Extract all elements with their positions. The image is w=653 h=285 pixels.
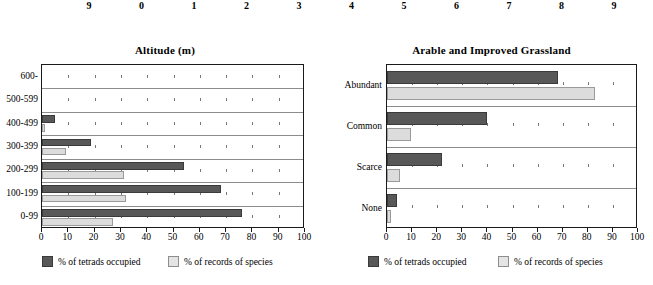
x-gridline-tick bbox=[613, 123, 614, 126]
legend-swatch-dark-icon bbox=[42, 256, 53, 267]
bar bbox=[42, 171, 124, 179]
x-axis-tick-mark bbox=[461, 228, 462, 232]
x-gridline-tick bbox=[462, 205, 463, 208]
x-axis-tick-label: 100 bbox=[291, 232, 317, 243]
legend-label: % of tetrads occupied bbox=[58, 257, 141, 267]
x-gridline-tick bbox=[68, 122, 69, 125]
x-gridline-tick bbox=[226, 98, 227, 101]
legend-altitude: % of tetrads occupied% of records of spe… bbox=[0, 256, 330, 272]
x-axis-tick-label: 30 bbox=[107, 232, 133, 243]
x-gridline-tick bbox=[279, 192, 280, 195]
x-gridline-tick bbox=[200, 145, 201, 148]
x-gridline-tick bbox=[538, 164, 539, 167]
x-gridline-tick bbox=[538, 205, 539, 208]
x-gridline-tick bbox=[252, 192, 253, 195]
x-gridline-tick bbox=[613, 205, 614, 208]
cut-off-axis-tick-label: 6 bbox=[448, 0, 466, 12]
x-gridline-tick bbox=[252, 145, 253, 148]
cut-off-axis-tick-label: 7 bbox=[500, 0, 518, 12]
x-gridline-tick bbox=[613, 164, 614, 167]
category-separator bbox=[42, 135, 303, 136]
category-separator bbox=[42, 112, 303, 113]
x-gridline-tick bbox=[226, 192, 227, 195]
legend-item-records-of-species: % of records of species bbox=[168, 256, 273, 267]
x-axis-tick-label: 40 bbox=[473, 232, 499, 243]
x-gridline-tick bbox=[252, 169, 253, 172]
x-gridline-tick bbox=[200, 169, 201, 172]
x-gridline-tick bbox=[588, 164, 589, 167]
y-axis-category-label: Scarce bbox=[330, 162, 382, 172]
x-gridline-tick bbox=[279, 145, 280, 148]
x-axis-tick-label: 20 bbox=[81, 232, 107, 243]
bar bbox=[42, 218, 113, 226]
x-gridline-tick bbox=[147, 122, 148, 125]
x-axis-tick-mark bbox=[251, 228, 252, 232]
legend-label: % of records of species bbox=[184, 257, 273, 267]
y-axis-category-label: 0-99 bbox=[0, 211, 38, 221]
x-axis-tick-mark bbox=[173, 228, 174, 232]
x-axis-tick-label: 60 bbox=[524, 232, 550, 243]
bar bbox=[387, 128, 411, 142]
cut-off-axis-tick-label: 4 bbox=[343, 0, 361, 12]
bar bbox=[387, 87, 595, 101]
x-axis-tick-label: 80 bbox=[574, 232, 600, 243]
y-axis-category-label: Common bbox=[330, 121, 382, 131]
legend-item-tetrads-occupied: % of tetrads occupied bbox=[368, 256, 467, 267]
legend-arable-grassland: % of tetrads occupied% of records of spe… bbox=[330, 256, 653, 272]
x-gridline-tick bbox=[200, 75, 201, 78]
legend-item-records-of-species: % of records of species bbox=[498, 256, 603, 267]
bar bbox=[387, 112, 487, 126]
x-gridline-tick bbox=[95, 122, 96, 125]
y-axis-category-label: 300-399 bbox=[0, 141, 38, 151]
x-axis-tick-mark bbox=[146, 228, 147, 232]
chart-title-altitude: Altitude (m) bbox=[0, 44, 330, 56]
x-axis-tick-label: 100 bbox=[624, 232, 650, 243]
x-axis-tick-label: 10 bbox=[54, 232, 80, 243]
x-axis-tick-label: 70 bbox=[549, 232, 575, 243]
category-separator bbox=[387, 147, 636, 148]
x-gridline-tick bbox=[252, 75, 253, 78]
x-axis-tick-label: 60 bbox=[186, 232, 212, 243]
cut-off-axis-tick-label: 8 bbox=[553, 0, 571, 12]
x-gridline-tick bbox=[95, 98, 96, 101]
category-separator bbox=[42, 159, 303, 160]
bar bbox=[387, 71, 558, 85]
plot-area-arable-grassland bbox=[386, 64, 637, 228]
y-axis-category-label: 100-199 bbox=[0, 188, 38, 198]
x-gridline-tick bbox=[121, 98, 122, 101]
bar bbox=[387, 194, 397, 208]
bar bbox=[42, 148, 66, 156]
x-gridline-tick bbox=[563, 164, 564, 167]
x-gridline-tick bbox=[487, 205, 488, 208]
x-gridline-tick bbox=[588, 82, 589, 85]
x-gridline-tick bbox=[121, 145, 122, 148]
x-gridline-tick bbox=[279, 169, 280, 172]
x-axis-tick-mark bbox=[637, 228, 638, 232]
legend-swatch-dark-icon bbox=[368, 256, 379, 267]
y-axis-category-label: 400-499 bbox=[0, 118, 38, 128]
bar bbox=[387, 153, 442, 167]
x-axis-tick-mark bbox=[587, 228, 588, 232]
x-axis-tick-label: 90 bbox=[599, 232, 625, 243]
x-gridline-tick bbox=[279, 98, 280, 101]
x-gridline-tick bbox=[279, 215, 280, 218]
x-axis-tick-label: 50 bbox=[160, 232, 186, 243]
x-axis-tick-mark bbox=[537, 228, 538, 232]
x-gridline-tick bbox=[121, 122, 122, 125]
x-gridline-tick bbox=[147, 145, 148, 148]
x-gridline-tick bbox=[68, 75, 69, 78]
legend-swatch-light-icon bbox=[168, 256, 179, 267]
x-gridline-tick bbox=[279, 75, 280, 78]
chart-title-arable-grassland: Arable and Improved Grassland bbox=[330, 44, 653, 56]
x-gridline-tick bbox=[226, 145, 227, 148]
x-axis-tick-label: 70 bbox=[212, 232, 238, 243]
x-axis-tick-label: 40 bbox=[133, 232, 159, 243]
x-axis-tick-mark bbox=[386, 228, 387, 232]
x-axis-tick-mark bbox=[562, 228, 563, 232]
x-gridline-tick bbox=[613, 82, 614, 85]
x-gridline-tick bbox=[68, 98, 69, 101]
bar bbox=[42, 185, 221, 193]
x-axis-tick-mark bbox=[278, 228, 279, 232]
x-gridline-tick bbox=[200, 98, 201, 101]
x-gridline-tick bbox=[538, 123, 539, 126]
